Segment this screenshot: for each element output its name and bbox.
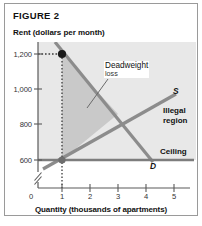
demand-curve-label: D <box>150 161 156 171</box>
x-tick-label-4: 4 <box>139 192 153 201</box>
origin-label: 0 <box>24 192 38 201</box>
y-tick-label-800: 800 <box>4 120 32 129</box>
figure-container: FIGURE 2 Rent (dollars per month) <box>0 0 202 226</box>
marker-quantity-demanded <box>58 50 66 58</box>
illegal-region-label-line1: Illegal <box>163 106 186 115</box>
x-tick-label-1: 1 <box>55 192 69 201</box>
y-tick-label-600: 600 <box>4 156 32 165</box>
ceiling-label: Ceiling <box>160 147 187 157</box>
illegal-region-label: Illegal region <box>163 106 187 125</box>
y-tick-label-1200: 1,200 <box>4 50 32 59</box>
illegal-region-label-line2: region <box>163 116 187 125</box>
marker-quantity-supplied <box>58 156 65 163</box>
deadweight-loss-label-line2: loss <box>105 70 148 78</box>
deadweight-loss-callout: Deadweight loss <box>104 61 149 78</box>
x-axis-title: Quantity (thousands of apartments) <box>0 205 202 214</box>
x-tick-label-5: 5 <box>167 192 181 201</box>
x-tick-label-2: 2 <box>83 192 97 201</box>
x-tick-label-3: 3 <box>111 192 125 201</box>
supply-curve-label: S <box>173 86 179 96</box>
y-tick-label-1000: 1,000 <box>4 85 32 94</box>
